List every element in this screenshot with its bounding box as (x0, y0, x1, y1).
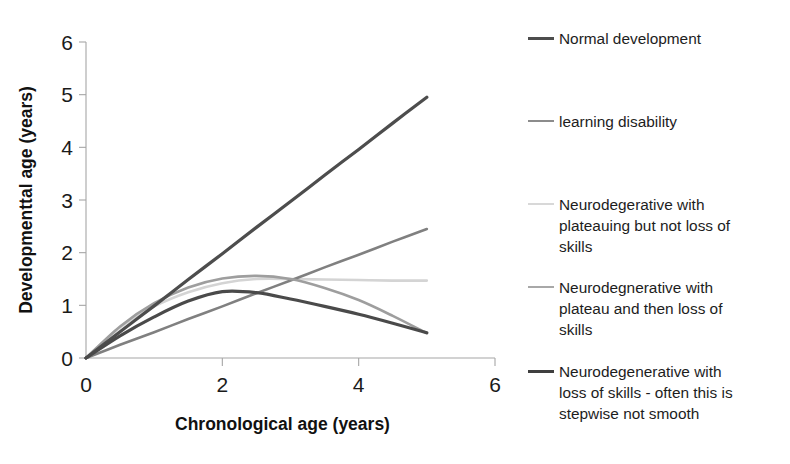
y-tick-label: 5 (61, 83, 73, 106)
y-tick-label: 4 (61, 136, 73, 159)
y-tick-label: 3 (61, 189, 73, 212)
legend-item-4[interactable]: Neurodegnerative with plateau and then l… (528, 277, 790, 340)
legend-swatch-icon (528, 286, 554, 288)
chart-legend: Normal developmentlearning disabilityNeu… (520, 0, 790, 464)
x-tick-label: 6 (489, 373, 501, 396)
plot-svg: 01234560246Chronological age (years)Deve… (0, 0, 520, 464)
chart-figure: 01234560246Chronological age (years)Deve… (0, 0, 790, 464)
series-line-5 (86, 291, 427, 358)
legend-swatch-icon (528, 120, 554, 122)
legend-item-5[interactable]: Neurodegenerative with loss of skills - … (528, 361, 790, 424)
legend-item-label: Normal development (559, 28, 701, 49)
y-tick-label: 0 (61, 347, 73, 370)
legend-item-label: Neurodegenerative with loss of skills - … (559, 361, 733, 424)
legend-item-1[interactable]: Normal development (528, 28, 790, 49)
y-axis-title: Developmenttal age (years) (16, 86, 36, 314)
y-tick-label: 6 (61, 31, 73, 54)
legend-swatch-icon (528, 203, 554, 205)
legend-item-label: Neurodegnerative with plateau and then l… (559, 277, 722, 340)
x-axis-title: Chronological age (years) (175, 414, 390, 434)
legend-item-label: Neurodegerative with plateauing but not … (559, 194, 730, 257)
x-tick-label: 2 (216, 373, 228, 396)
plot-area: 01234560246Chronological age (years)Deve… (0, 0, 520, 464)
legend-swatch-icon (528, 37, 554, 40)
y-tick-label: 1 (61, 294, 73, 317)
x-tick-label: 0 (80, 373, 92, 396)
x-tick-label: 4 (353, 373, 365, 396)
legend-item-2[interactable]: learning disability (528, 111, 790, 132)
y-tick-label: 2 (61, 241, 73, 264)
legend-item-3[interactable]: Neurodegerative with plateauing but not … (528, 194, 790, 257)
legend-item-label: learning disability (559, 111, 677, 132)
legend-swatch-icon (528, 370, 554, 373)
